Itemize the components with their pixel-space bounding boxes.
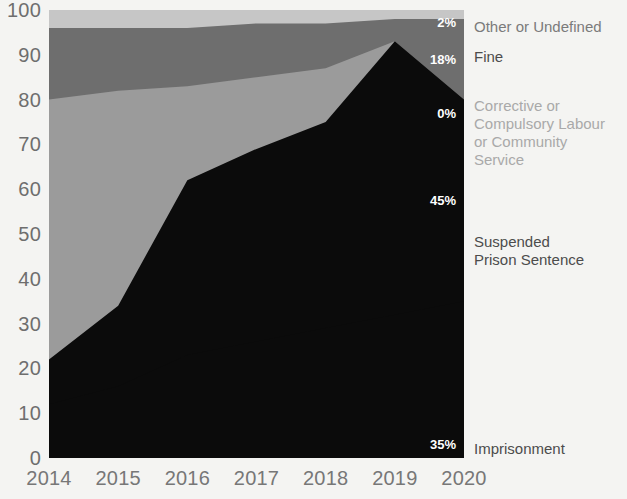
chart-legend: Other or UndefinedFineCorrective or Comp… — [474, 0, 627, 470]
y-axis: 0102030405060708090100 — [0, 0, 44, 470]
legend-item: Other or Undefined — [474, 18, 602, 36]
y-axis-tick-label: 50 — [18, 224, 41, 244]
x-axis-tick-label: 2019 — [372, 466, 417, 491]
x-axis-tick-label: 2014 — [26, 466, 71, 491]
stacked-area-chart: 0102030405060708090100 20142015201620172… — [0, 0, 627, 499]
y-axis-tick-label: 10 — [18, 403, 41, 423]
y-axis-tick-label: 80 — [18, 90, 41, 110]
y-axis-tick-label: 100 — [7, 0, 41, 20]
series-value-label: 35% — [408, 438, 456, 451]
legend-item: Imprisonment — [474, 440, 565, 458]
x-axis: 2014201520162017201820192020 — [0, 466, 627, 498]
y-axis-tick-label: 90 — [18, 45, 41, 65]
legend-item: Fine — [474, 48, 503, 66]
area-series-svg — [49, 10, 464, 458]
x-axis-tick-label: 2015 — [96, 466, 141, 491]
series-value-label: 45% — [408, 194, 456, 207]
y-axis-tick-label: 30 — [18, 314, 41, 334]
legend-item: Suspended Prison Sentence — [474, 233, 584, 269]
y-axis-tick-label: 20 — [18, 358, 41, 378]
series-value-label: 2% — [408, 16, 456, 29]
y-axis-tick-label: 70 — [18, 134, 41, 154]
legend-item: Corrective or Compulsory Labour or Commu… — [474, 97, 605, 169]
plot-area — [49, 10, 464, 458]
x-axis-tick-label: 2016 — [165, 466, 210, 491]
y-axis-tick-label: 0 — [30, 448, 41, 468]
y-axis-tick-label: 40 — [18, 269, 41, 289]
x-axis-tick-label: 2017 — [234, 466, 279, 491]
series-value-label: 18% — [408, 53, 456, 66]
y-axis-tick-label: 60 — [18, 179, 41, 199]
x-axis-tick-label: 2018 — [303, 466, 348, 491]
series-value-label: 0% — [408, 107, 456, 120]
